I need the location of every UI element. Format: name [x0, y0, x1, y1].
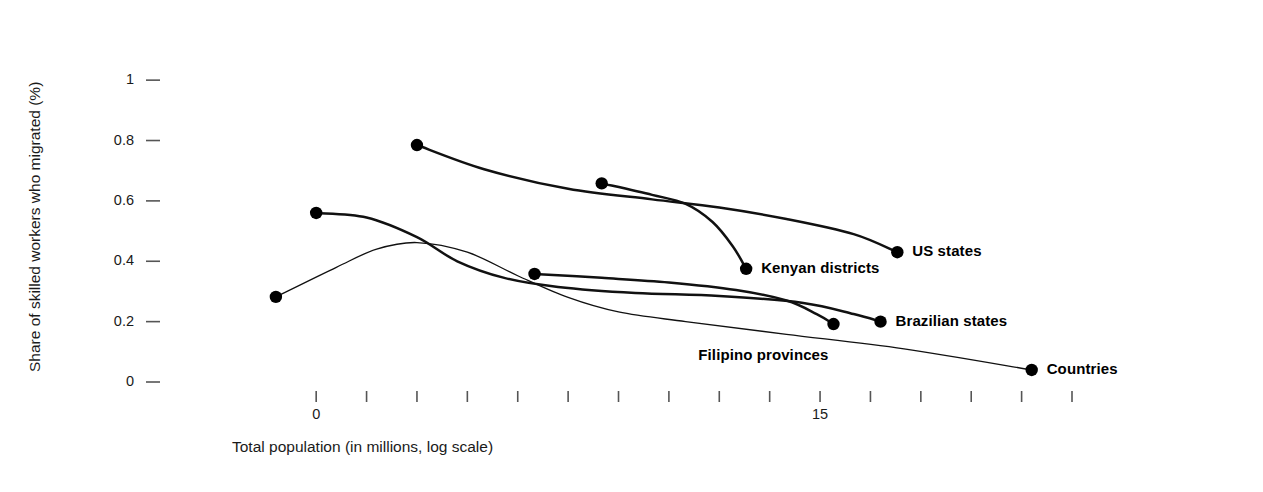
x-axis-tick-label: 0	[296, 406, 336, 422]
series-label-brazilian-states: Brazilian states	[896, 312, 1008, 329]
y-axis-title: Share of skilled workers who migrated (%…	[26, 12, 52, 372]
y-axis-tick-label: 0.2	[88, 313, 134, 329]
start-marker-brazilian-states	[310, 207, 322, 219]
end-marker-kenyan-districts	[740, 263, 752, 275]
start-marker-countries	[270, 291, 282, 303]
series-line-filipino-provinces	[535, 274, 834, 324]
end-marker-filipino-provinces	[827, 318, 839, 330]
end-marker-brazilian-states	[874, 315, 886, 327]
series-label-us-states: US states	[912, 242, 981, 259]
y-axis-tick-label: 0	[88, 373, 134, 389]
y-axis-tick-label: 1	[88, 71, 134, 87]
x-axis-tick-label: 15	[800, 406, 840, 422]
y-axis-ticks	[146, 80, 160, 382]
series-label-kenyan-districts: Kenyan districts	[761, 259, 879, 276]
series-line-us-states	[417, 145, 897, 252]
series-label-countries: Countries	[1047, 360, 1118, 377]
x-axis-ticks	[316, 391, 1072, 402]
end-marker-countries	[1025, 364, 1037, 376]
x-axis-title: Total population (in millions, log scale…	[232, 438, 493, 456]
series-label-filipino-provinces: Filipino provinces	[628, 346, 828, 363]
start-marker-us-states	[411, 139, 423, 151]
start-marker-filipino-provinces	[528, 268, 540, 280]
start-marker-kenyan-districts	[596, 177, 608, 189]
end-marker-us-states	[891, 246, 903, 258]
chart-plot-area	[0, 0, 1263, 492]
y-axis-tick-label: 0.8	[88, 132, 134, 148]
y-axis-tick-label: 0.6	[88, 192, 134, 208]
chart-figure: Share of skilled workers who migrated (%…	[0, 0, 1263, 492]
y-axis-tick-label: 0.4	[88, 252, 134, 268]
